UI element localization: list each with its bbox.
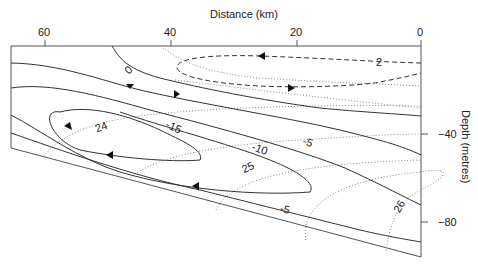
x-tick-20: 20 (290, 26, 302, 38)
y-tick-minus80: −80 (438, 216, 457, 228)
y-axis-title: Depth (metres) (460, 110, 472, 183)
contour-label-2: 2 (376, 56, 382, 68)
arrow-right-icon (174, 90, 180, 98)
isotherm-label-26: 26 (391, 198, 408, 215)
isotherm-label-25: 25 (240, 159, 256, 175)
arrow-left-icon (106, 151, 113, 159)
plot-frame (11, 40, 428, 257)
isotherms (44, 48, 443, 252)
contour-positive-2 (177, 52, 421, 92)
x-tick-60: 60 (38, 26, 50, 38)
x-axis-title: Distance (km) (210, 8, 278, 20)
contour-label-0: 0 (122, 63, 134, 76)
contour-label-minus5-upper: -5 (301, 135, 314, 150)
isotherm-label-24: 24 (93, 119, 109, 134)
x-tick-0-label: 0 (417, 26, 423, 38)
contour-label-minus5-lower: -5 (279, 202, 292, 216)
arrow-left-icon (64, 122, 72, 130)
contour-label-minus10: -10 (250, 140, 269, 157)
contours-solid (11, 46, 421, 242)
arrow-left-icon (258, 52, 265, 60)
y-tick-minus40: −40 (438, 128, 457, 140)
x-tick-40: 40 (164, 26, 176, 38)
contour-chart: Distance (km) 60 40 20 0 −40 −80 Depth (… (0, 0, 478, 268)
arrow-right-icon (288, 84, 295, 92)
